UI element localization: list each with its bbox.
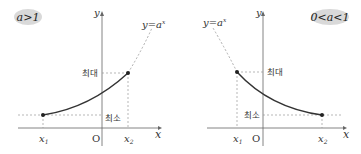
right-y-label: y bbox=[255, 7, 262, 18]
left-badge: a>1 bbox=[17, 11, 40, 24]
right-x1-label: x1 bbox=[233, 133, 242, 145]
left-curve-extension bbox=[128, 28, 152, 73]
left-point-x1 bbox=[41, 113, 45, 117]
right-badge: 0<a<1 bbox=[311, 11, 350, 24]
left-curve bbox=[43, 73, 128, 115]
right-curve bbox=[237, 72, 322, 115]
right-max-label: 최대 bbox=[267, 67, 283, 77]
right-point-x2 bbox=[320, 113, 324, 117]
left-x-label: x bbox=[155, 128, 162, 141]
left-x1-label: x1 bbox=[39, 133, 48, 145]
left-min-label: 최소 bbox=[105, 113, 121, 123]
right-x-label: x bbox=[343, 128, 350, 141]
right-min-label: 최소 bbox=[244, 110, 260, 120]
left-point-x2 bbox=[126, 71, 130, 75]
left-graph: a>1 y x O y=ax 최대 최소 x1 x2 bbox=[14, 7, 166, 146]
left-x2-label: x2 bbox=[124, 133, 134, 145]
left-origin-label: O bbox=[92, 133, 100, 144]
left-y-label: y bbox=[93, 7, 100, 18]
right-point-x1 bbox=[235, 70, 239, 74]
exponential-graphs-diagram: a>1 y x O y=ax 최대 최소 x1 x2 0<a<1 bbox=[0, 0, 361, 154]
right-curve-extension bbox=[213, 28, 237, 72]
left-curve-label: y=ax bbox=[141, 18, 166, 30]
right-graph: 0<a<1 y x O y=ax 최대 최소 x1 x2 bbox=[202, 7, 350, 146]
left-max-label: 최대 bbox=[82, 68, 98, 78]
right-x2-label: x2 bbox=[318, 133, 328, 145]
right-origin-label: O bbox=[252, 133, 260, 144]
left-y-arrow-icon bbox=[100, 11, 104, 16]
right-curve-label: y=ax bbox=[202, 16, 227, 28]
